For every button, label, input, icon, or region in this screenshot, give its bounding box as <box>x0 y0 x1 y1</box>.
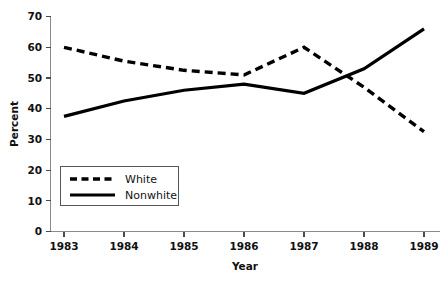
y-tick-label-10: 10 <box>27 195 42 207</box>
y-tick-label-40: 40 <box>27 102 42 114</box>
chart-legend: White Nonwhite <box>61 167 179 206</box>
series-line-nonwhite <box>64 29 424 117</box>
chart-series-group <box>64 29 424 132</box>
series-line-white <box>64 47 424 131</box>
x-tick-label-1984: 1984 <box>109 240 138 252</box>
x-tick-label-1987: 1987 <box>289 240 318 252</box>
chart-canvas: 0 10 20 30 40 50 60 70 1983 1984 1985 19… <box>0 0 446 281</box>
y-tick-label-20: 20 <box>27 164 42 176</box>
x-tick-label-1983: 1983 <box>49 240 78 252</box>
x-axis-title: Year <box>231 260 259 272</box>
y-tick-label-30: 30 <box>27 133 42 145</box>
line-chart: 0 10 20 30 40 50 60 70 1983 1984 1985 19… <box>0 0 446 281</box>
x-axis-tick-labels: 1983 1984 1985 1986 1987 1988 1989 <box>49 240 438 252</box>
y-tick-label-50: 50 <box>27 72 42 84</box>
x-tick-label-1989: 1989 <box>409 240 438 252</box>
y-axis-ticks <box>46 17 51 232</box>
y-tick-label-70: 70 <box>27 10 42 22</box>
y-tick-label-0: 0 <box>35 225 42 237</box>
x-axis-ticks <box>64 232 424 238</box>
y-axis-tick-labels: 0 10 20 30 40 50 60 70 <box>27 10 42 237</box>
x-tick-label-1986: 1986 <box>229 240 258 252</box>
legend-label-nonwhite: Nonwhite <box>125 189 177 202</box>
x-tick-label-1985: 1985 <box>169 240 198 252</box>
legend-label-white: White <box>125 173 157 186</box>
y-axis-title: Percent <box>8 101 20 147</box>
y-tick-label-60: 60 <box>27 41 42 53</box>
x-tick-label-1988: 1988 <box>349 240 378 252</box>
